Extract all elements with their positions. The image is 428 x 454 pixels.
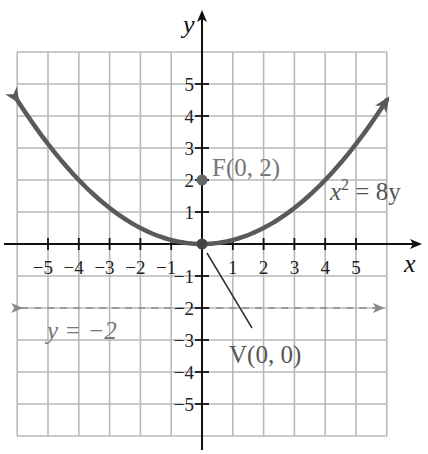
y-tick-label: 5 — [185, 74, 195, 95]
x-tick-label: −3 — [94, 257, 114, 278]
x-tick-label: 3 — [290, 257, 300, 278]
y-tick-label: −4 — [174, 362, 195, 383]
equation-rest: = 8y — [349, 178, 401, 205]
y-tick-label: −1 — [174, 266, 194, 287]
equation-label: x2 = 8y — [329, 176, 401, 205]
y-tick-label: 3 — [185, 138, 195, 159]
y-axis-label: y — [180, 10, 195, 39]
vertex-point — [197, 239, 208, 250]
focus-label: F(0, 2) — [212, 154, 280, 182]
parabola-chart: −5−4−3−2−112345−5−4−3−2−112345 y x F(0, … — [0, 0, 428, 454]
vertex-label: V(0, 0) — [229, 341, 301, 369]
directrix-label: y = −2 — [44, 317, 117, 344]
x-axis-label: x — [403, 249, 416, 278]
x-tick-label: 1 — [228, 257, 238, 278]
y-tick-label: −3 — [174, 330, 194, 351]
x-tick-label: 2 — [259, 257, 269, 278]
y-tick-label: 4 — [185, 106, 195, 127]
x-tick-label: 4 — [320, 257, 330, 278]
y-tick-label: −2 — [174, 298, 194, 319]
y-tick-label: 2 — [185, 170, 195, 191]
equation-base: x — [329, 178, 341, 205]
focus-point — [197, 175, 208, 186]
x-tick-label: 5 — [351, 257, 361, 278]
x-tick-label: −2 — [125, 257, 145, 278]
x-tick-label: −5 — [33, 257, 53, 278]
y-tick-label: 1 — [185, 202, 195, 223]
y-tick-label: −5 — [174, 394, 194, 415]
x-tick-label: −4 — [64, 257, 85, 278]
equation-exponent: 2 — [341, 176, 349, 193]
